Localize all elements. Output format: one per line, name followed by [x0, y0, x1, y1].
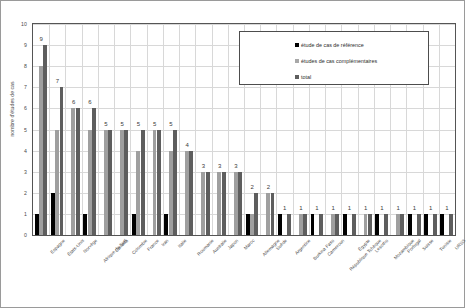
bar-value-label: 4	[186, 142, 189, 148]
bar	[88, 130, 92, 236]
bar	[311, 214, 315, 235]
bar	[43, 45, 47, 235]
x-axis-labels: EspagneÉtats-UnisNorvègeAfrique du SudCa…	[32, 238, 456, 308]
bar	[238, 172, 242, 235]
bar-value-label: 2	[250, 184, 253, 190]
bar	[364, 214, 368, 235]
bar	[35, 214, 39, 235]
bar	[104, 130, 108, 236]
bar	[201, 172, 205, 235]
legend-label-reference: étude de cas de référence	[301, 42, 364, 48]
bar	[164, 214, 168, 235]
bar	[375, 214, 379, 235]
legend-swatch-icon-complementary	[295, 59, 299, 63]
bar-group	[148, 24, 161, 235]
bar-value-label: 9	[39, 36, 42, 42]
bar	[266, 193, 270, 235]
bar	[408, 214, 412, 235]
legend-swatch-icon-total	[295, 75, 299, 79]
bar	[185, 151, 189, 235]
bar-value-label: 3	[202, 163, 205, 169]
chart-legend: étude de cas de référence études de cas …	[239, 31, 429, 85]
bar	[39, 66, 43, 235]
bar	[449, 214, 453, 235]
x-axis-tick-label: Suisse	[422, 238, 436, 252]
bar	[169, 151, 173, 235]
bar	[368, 214, 372, 235]
bar-value-label: 5	[169, 121, 172, 127]
bar-value-label: 3	[234, 163, 237, 169]
bar	[189, 151, 193, 235]
bar-value-label: 5	[153, 121, 156, 127]
y-axis-tick-label: 3	[24, 169, 27, 175]
y-axis-tick-label: 5	[24, 127, 27, 133]
bar-group	[132, 24, 145, 235]
bar	[440, 214, 444, 235]
bar	[71, 108, 75, 235]
x-axis-tick-label: Maroc	[243, 238, 256, 251]
legend-swatch-icon-reference	[295, 43, 299, 47]
bar-value-label: 5	[137, 121, 140, 127]
bar	[250, 214, 254, 235]
legend-label-total: total	[301, 74, 311, 80]
bar	[120, 130, 124, 236]
bar	[254, 193, 258, 235]
bar	[153, 130, 157, 236]
bar	[108, 130, 112, 236]
y-axis-tick-label: 0	[24, 232, 27, 238]
bar	[331, 214, 335, 235]
y-axis-tick-label: 10	[21, 21, 27, 27]
bar	[299, 214, 303, 235]
bar	[173, 130, 177, 236]
bar	[433, 214, 437, 235]
x-axis-tick-label: Italie	[177, 238, 188, 249]
bar-group	[83, 24, 96, 235]
bar	[271, 193, 275, 235]
bar	[157, 130, 161, 236]
bar-group	[100, 24, 113, 235]
bar	[132, 214, 136, 235]
bar-value-label: 1	[397, 205, 400, 211]
y-axis-tick-label: 1	[24, 211, 27, 217]
bar	[83, 214, 87, 235]
bar-group	[213, 24, 226, 235]
y-axis-tick-label: 2	[24, 190, 27, 196]
y-axis-ticks: 012345678910	[1, 23, 30, 236]
bar-value-label: 1	[348, 205, 351, 211]
bar	[76, 108, 80, 235]
bar	[206, 172, 210, 235]
bar-value-label: 1	[445, 205, 448, 211]
bar	[278, 214, 282, 235]
bar	[55, 130, 59, 236]
bar-group	[197, 24, 210, 235]
bar-value-label: 1	[364, 205, 367, 211]
y-axis-tick-label: 8	[24, 63, 27, 69]
bar	[60, 87, 64, 235]
x-axis-tick-label: URSS	[454, 238, 466, 251]
bar	[352, 214, 356, 235]
bar	[51, 193, 55, 235]
bar	[246, 214, 250, 235]
bar	[234, 172, 238, 235]
bar	[396, 214, 400, 235]
bar	[141, 130, 145, 236]
x-axis-tick-label: Iran	[160, 238, 169, 247]
bar-value-label: 6	[72, 99, 75, 105]
x-axis-tick-label: Japon	[226, 238, 239, 251]
bar-group	[164, 24, 177, 235]
bar-value-label: 1	[429, 205, 432, 211]
bar	[92, 108, 96, 235]
bar	[124, 130, 128, 236]
bar	[217, 172, 221, 235]
bar-group	[67, 24, 80, 235]
y-axis-tick-label: 7	[24, 84, 27, 90]
bar-group	[181, 24, 194, 235]
bar-value-label: 1	[380, 205, 383, 211]
bar	[343, 214, 347, 235]
bar	[319, 214, 323, 235]
bar-value-label: 1	[332, 205, 335, 211]
x-axis-tick-label: États-Unis	[67, 238, 86, 257]
legend-item-complementary: études de cas complémentaires	[295, 53, 428, 69]
x-axis-tick-label: Tunisie	[438, 238, 452, 252]
bar	[400, 214, 404, 235]
